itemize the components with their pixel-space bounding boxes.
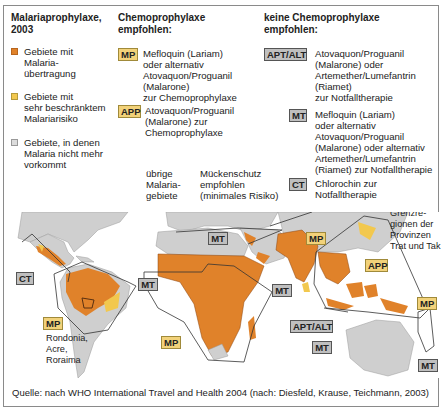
- map-badge-africa-mp: MP: [161, 336, 181, 349]
- legend-item-limited-risk: Gebiete mit sehr beschränktem Malariaris…: [11, 91, 106, 124]
- no-chemo-item-text: Atovaquon/Proguanil (Malarone) oder Arte…: [315, 48, 416, 103]
- map-badge-americas-mt: MT: [138, 278, 158, 291]
- other-areas-label: übrige Malaria- gebiete: [146, 168, 181, 201]
- legend-label: Gebiete mit sehr beschränktem Malariaris…: [24, 91, 106, 124]
- chemo-item-text: Mefloquin (Lariam) oder alternativ Atova…: [143, 48, 237, 103]
- no-chemo-item-text: Chlorochin zur Notfalltherapie: [315, 178, 377, 200]
- transmission-swatch: [11, 48, 18, 55]
- chemo-item-app: APP Atovaquon/Proguanil (Malarone) zur C…: [118, 105, 234, 138]
- no-chemo-item-apt-alt: APT/ALT Atovaquon/Proguanil (Malarone) o…: [264, 48, 416, 103]
- mp-badge: MP: [118, 48, 138, 61]
- chemo-item-text: Atovaquon/Proguanil (Malarone) zur Chemo…: [145, 105, 234, 138]
- legend-title: Malariaprophylaxe, 2003: [11, 12, 117, 35]
- map-badge-thailand-app: APP: [365, 259, 388, 272]
- legend-column: Malariaprophylaxe, 2003: [11, 12, 117, 35]
- source-caption: Quelle: nach WHO International Travel an…: [12, 387, 429, 398]
- mt-badge: MT: [289, 109, 307, 122]
- no-chemo-item-mt: MT Mefloquin (Lariam) oder alternativ At…: [289, 109, 432, 175]
- chemo-title: Chemoprophylaxe empfohlen:: [118, 12, 248, 35]
- ct-badge: CT: [289, 178, 307, 191]
- brazil-regions-label: Rondonia, Acre, Roraima: [46, 333, 88, 366]
- legend-item-no-malaria: Gebiete, in denen Malaria nicht mehr vor…: [11, 137, 103, 170]
- map-badge-americas-ct: CT: [16, 272, 34, 285]
- map-badge-asia-mp: MP: [306, 232, 326, 245]
- legend-label: Gebiete mit Malaria- übertragung: [24, 46, 76, 79]
- map-badge-americas-mp: MP: [43, 317, 63, 330]
- app-badge: APP: [118, 105, 141, 118]
- apt-alt-badge: APT/ALT: [264, 48, 307, 61]
- map-badge-pacific-mp: MP: [417, 297, 437, 310]
- legend-item-transmission: Gebiete mit Malaria- übertragung: [11, 46, 76, 79]
- no-malaria-swatch: [11, 139, 18, 146]
- thai-border-label: Grenzre- gionen der Provinzen Trat und T…: [390, 212, 441, 252]
- no-chemo-title: keine Chemoprophylaxe empfohlen:: [264, 12, 434, 35]
- no-chemo-item-ct: CT Chlorochin zur Notfalltherapie: [289, 178, 377, 200]
- map-badge-indonesia-apt-alt: APT/ALT: [290, 320, 333, 333]
- legend-label: Gebiete, in denen Malaria nicht mehr vor…: [24, 137, 103, 170]
- figure-frame: Malariaprophylaxe, 2003 Gebiete mit Mala…: [3, 5, 439, 407]
- map-badge-indonesia-mt: MT: [312, 341, 332, 354]
- chemo-column: Chemoprophylaxe empfohlen:: [118, 12, 248, 35]
- mosquito-protection-note: Mückenschutz empfohlen (minimales Risiko…: [200, 168, 278, 201]
- limited-risk-swatch: [11, 93, 18, 100]
- map-badge-vanuatu-mt: MT: [418, 359, 438, 372]
- map-badge-mediterranean-mt: MT: [208, 232, 228, 245]
- map-badge-srilanka-mt: MT: [272, 284, 292, 297]
- chemo-item-mp: MP Mefloquin (Lariam) oder alternativ At…: [118, 48, 237, 103]
- world-map: CT MT MP Rondonia, Acre, Roraima MT MP M…: [8, 212, 442, 378]
- no-chemo-item-text: Mefloquin (Lariam) oder alternativ Atova…: [315, 109, 432, 175]
- no-chemo-column: keine Chemoprophylaxe empfohlen:: [264, 12, 434, 35]
